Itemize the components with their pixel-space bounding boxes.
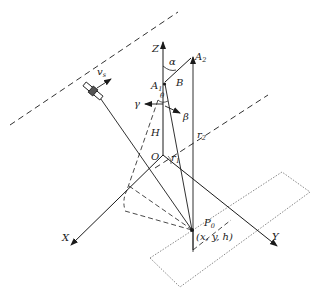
- projection-dashed-2: [125, 211, 192, 230]
- label-x: X: [61, 232, 70, 243]
- projection-dashed-1: [127, 100, 158, 190]
- beta-vector: [165, 106, 180, 113]
- label-gamma: γ: [134, 98, 140, 109]
- label-y: Y: [272, 231, 280, 242]
- label-p0-coords: (x, y, h): [196, 231, 233, 242]
- a1-point: [163, 82, 166, 85]
- projection-dashed-4: [129, 186, 191, 229]
- velocity-vector: [97, 79, 111, 88]
- orbit-track-line: [10, 12, 178, 125]
- label-h: H: [150, 127, 160, 138]
- label-z: Z: [151, 43, 160, 54]
- label-beta: β: [182, 111, 189, 122]
- label-a2: A2: [194, 51, 206, 64]
- label-alpha: α: [169, 56, 176, 67]
- p0-point: [190, 228, 194, 232]
- ground-footprint: [150, 172, 310, 287]
- label-o: O: [151, 151, 159, 162]
- label-vs: vs: [97, 66, 107, 79]
- diagram-canvas: vs Z α A2 B A1 θ γ β H r2 O r1 P0 (x, y,…: [0, 0, 325, 298]
- label-b: B: [175, 77, 183, 88]
- satellite-icon: [82, 81, 104, 101]
- label-p0: P0: [203, 217, 215, 230]
- geometry-svg: vs Z α A2 B A1 θ γ β H r2 O r1 P0 (x, y,…: [0, 0, 325, 298]
- label-theta: θ: [160, 92, 165, 100]
